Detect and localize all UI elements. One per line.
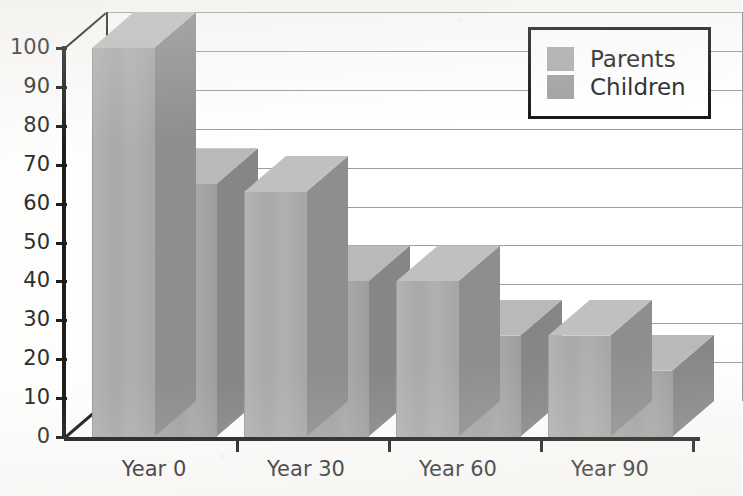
gridline xyxy=(106,12,742,13)
bar-parents-2 xyxy=(396,245,500,437)
bar-front-face xyxy=(92,48,155,437)
y-axis-tick-label: 30 xyxy=(4,309,50,330)
y-axis-tick-label: 90 xyxy=(4,76,50,97)
x-axis-tick-label: Year 60 xyxy=(388,459,528,480)
y-axis-tick-label: 100 xyxy=(4,37,50,58)
y-axis-tick-mark xyxy=(56,242,67,245)
y-axis-tick-mark xyxy=(56,319,67,322)
y-axis-tick-mark xyxy=(56,86,67,89)
y-axis-tick-mark xyxy=(56,125,67,128)
x-axis-tick-mark xyxy=(236,441,239,452)
x-axis-tick-label: Year 0 xyxy=(84,459,224,480)
y-axis-tick-label: 80 xyxy=(4,115,50,136)
bar-front-face xyxy=(244,192,307,437)
y-axis-tick-mark xyxy=(56,280,67,283)
bar-parents-1 xyxy=(244,156,348,437)
legend-label: Parents xyxy=(590,48,676,71)
x-axis-tick-mark xyxy=(692,441,695,452)
y-axis-tick-label: 70 xyxy=(4,154,50,175)
y-axis-tick-label: 0 xyxy=(4,426,50,447)
x-axis-tick-mark xyxy=(388,441,391,452)
bar-front-face xyxy=(548,336,611,437)
x-axis-tick-label: Year 30 xyxy=(236,459,376,480)
legend-swatch-children xyxy=(547,75,574,99)
legend-entry-children: Children xyxy=(547,75,686,99)
y-axis-tick-mark xyxy=(56,47,67,50)
bar-side-face xyxy=(154,12,196,437)
legend-entry-parents: Parents xyxy=(547,47,686,71)
chart-legend: ParentsChildren xyxy=(528,27,711,119)
y-axis-tick-label: 60 xyxy=(4,193,50,214)
bar-side-face xyxy=(306,156,348,437)
y-axis-tick-mark xyxy=(56,397,67,400)
y-axis-tick-mark xyxy=(56,203,67,206)
gridline xyxy=(106,129,742,130)
y-axis-tick-mark xyxy=(56,358,67,361)
y-axis-tick-label: 40 xyxy=(4,270,50,291)
x-axis-line xyxy=(64,437,700,441)
bar-front-face xyxy=(396,281,459,437)
legend-swatch-parents xyxy=(547,47,574,71)
bar-parents-3 xyxy=(548,300,652,437)
y-axis-tick-label: 20 xyxy=(4,348,50,369)
x-axis-tick-label: Year 90 xyxy=(540,459,680,480)
bar-parents-0 xyxy=(92,12,196,437)
y-axis-tick-label: 50 xyxy=(4,232,50,253)
legend-label: Children xyxy=(590,76,686,99)
x-axis-tick-mark xyxy=(540,441,543,452)
y-axis-tick-mark xyxy=(56,164,67,167)
y-axis-tick-label: 10 xyxy=(4,387,50,408)
